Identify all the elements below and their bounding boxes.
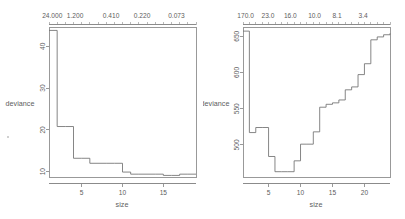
x-axis-tick-label: 20: [361, 189, 369, 196]
top-axis-tick-label: 0.410: [103, 12, 120, 19]
x-axis-tick-label: 10: [297, 189, 305, 196]
y-axis-tick-label: 10: [39, 168, 46, 176]
y-axis-tick-label: 600: [233, 67, 240, 78]
left-deviance-step-curve: [49, 30, 196, 175]
x-axis-tick-label: 15: [160, 189, 168, 196]
x-axis-tick-label: 5: [267, 189, 271, 196]
left-x-axis: 51015: [49, 184, 196, 197]
right-x-axis-title: size: [310, 200, 323, 209]
left-x-axis-title: size: [116, 200, 129, 209]
top-axis-tick-label: 24.000: [42, 12, 63, 19]
right-deviance-step-curve: [243, 31, 390, 172]
y-axis-tick-label: 20: [39, 126, 46, 134]
chart-panel-right: 170.023.016.010.08.13.4 500550600650 510…: [203, 0, 405, 219]
top-axis-tick-label: 10.0: [308, 12, 321, 19]
right-x-axis: 5101520: [243, 184, 390, 197]
top-axis-tick-label: 170.0: [237, 12, 254, 19]
y-axis-tick-label: 30: [39, 84, 46, 92]
x-axis-tick-label: 15: [329, 189, 337, 196]
left-y-axis: 10203040: [39, 42, 49, 175]
x-axis-tick-label: 10: [119, 189, 127, 196]
y-axis-tick-label: 550: [233, 103, 240, 114]
x-axis-tick-label: 5: [80, 189, 84, 196]
y-axis-tick-label: 650: [233, 30, 240, 41]
figure-container: 24.0001.2000.4100.2200.073 10203040 5101…: [0, 0, 405, 219]
top-axis-tick-label: 16.0: [284, 12, 297, 19]
right-chart-svg: 170.023.016.010.08.13.4 500550600650 510…: [203, 0, 405, 219]
top-axis-tick-label: 3.4: [359, 12, 368, 19]
left-plot-box: [49, 28, 196, 178]
right-top-axis: 170.023.016.010.08.13.4: [237, 12, 390, 25]
left-chart-svg: 24.0001.2000.4100.2200.073 10203040 5101…: [0, 0, 202, 219]
left-y-axis-title: deviance: [6, 99, 35, 108]
y-axis-tick-label: 40: [39, 42, 46, 50]
top-axis-tick-label: 0.220: [134, 12, 151, 19]
top-axis-tick-label: 1.200: [67, 12, 84, 19]
chart-panel-left: 24.0001.2000.4100.2200.073 10203040 5101…: [0, 0, 202, 219]
right-plot-box: [243, 28, 390, 178]
right-y-axis: 500550600650: [233, 30, 243, 150]
right-y-axis-title: deviance: [203, 99, 229, 108]
left-top-axis: 24.0001.2000.4100.2200.073: [42, 12, 196, 25]
y-axis-tick-label: 500: [233, 139, 240, 150]
top-axis-tick-label: 23.0: [261, 12, 274, 19]
top-axis-tick-label: 8.1: [332, 12, 341, 19]
top-axis-tick-label: 0.073: [168, 12, 185, 19]
